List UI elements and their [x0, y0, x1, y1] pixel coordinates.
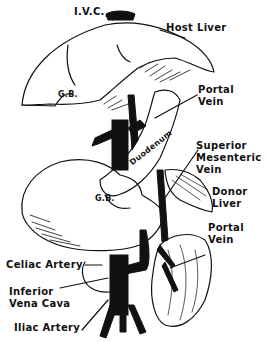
- label-portal-vein-top-2: Vein: [198, 96, 224, 107]
- label-host-liver: Host Liver: [166, 22, 227, 33]
- anatomy-figure: I.V.C. Host Liver G.B. Portal Vein Duode…: [0, 0, 266, 342]
- label-gb-donor: G.B.: [95, 194, 115, 203]
- label-inferior-vena-cava-2: Vena Cava: [9, 298, 70, 309]
- label-gb-host: G.B.: [58, 90, 78, 99]
- label-portal-vein-bot-1: Portal: [208, 222, 244, 233]
- iliac-artery-left: [100, 305, 116, 338]
- label-portal-vein-bot-2: Vein: [208, 234, 234, 245]
- label-iliac-artery: Iliac Artery: [14, 322, 80, 333]
- label-superior-2: Mesenteric: [196, 152, 261, 163]
- label-superior-1: Superior: [196, 140, 247, 151]
- label-celiac-artery: Celiac Artery: [6, 259, 83, 270]
- label-portal-vein-top-1: Portal: [198, 84, 234, 95]
- label-donor-liver-1: Donor: [212, 186, 248, 197]
- label-inferior-vena-cava-1: Inferior: [9, 286, 54, 297]
- host-liver-shape: [22, 23, 214, 105]
- host-portal-trunk: [112, 120, 128, 170]
- label-donor-liver-2: Liver: [212, 198, 242, 209]
- ivc-top-vessel: [106, 11, 135, 20]
- label-superior-3: Vein: [196, 164, 222, 175]
- label-ivc: I.V.C.: [74, 6, 105, 17]
